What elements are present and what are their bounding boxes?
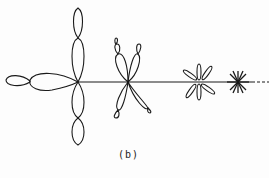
figure: (b) [0,0,269,178]
figure-caption: (b) [118,149,139,160]
medium-x-lobe-pattern [114,38,151,118]
tiny-star-pattern [227,71,249,93]
large-lobe-pattern [6,8,84,145]
